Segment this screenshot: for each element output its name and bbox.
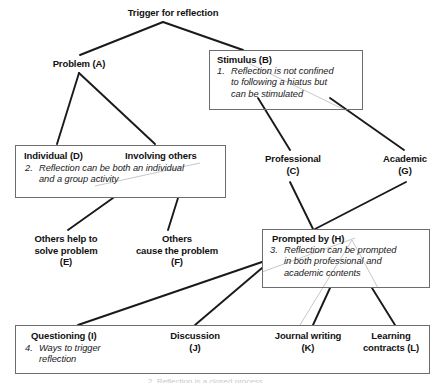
box-prompted-h-title: Prompted by (H) <box>272 233 344 245</box>
node-discussion-j: Discussion (J) <box>145 330 245 353</box>
box-individual-d-note-number: 2. <box>25 163 33 174</box>
edge-trigger-to-problem <box>80 22 163 55</box>
edge-trigger-to-stimulus <box>163 22 243 50</box>
edge-professional-to-prompted <box>290 182 313 229</box>
edge-prompted-to-learning <box>372 288 395 325</box>
box-prompted-h-note-number: 3. <box>270 245 278 256</box>
box-involving-others-title: Involving others <box>125 150 197 162</box>
box-stimulus-b-title: Stimulus (B) <box>217 54 272 66</box>
edge-problem-to-individual <box>57 73 79 144</box>
edge-involving-to-others-cause <box>168 198 178 230</box>
cut-off-caption: 2. Reflection is a closed process <box>148 377 263 383</box>
box-prompted-h-note-text: Reflection can be prompted in both profe… <box>284 245 429 279</box>
edge-prompted-to-journal <box>313 288 330 325</box>
box-methods-note-number: 4. <box>25 343 33 354</box>
edge-problem-to-involving <box>79 73 155 144</box>
diagram-canvas: Trigger for reflection Problem (A) Stimu… <box>0 0 442 385</box>
edge-prompted-to-questioning <box>78 262 262 325</box>
box-methods-note-text: Ways to trigger reflection <box>39 343 149 366</box>
box-individual-d-title: Individual (D) <box>24 150 83 162</box>
box-stimulus-b-note-number: 1. <box>217 66 225 77</box>
node-professional-c: Professional (C) <box>250 153 336 176</box>
node-learning-contracts-l: Learning contracts (L) <box>345 330 437 353</box>
box-individual-d-note-text: Reflection can be both an individual and… <box>39 163 224 186</box>
edge-prompted-to-discussion <box>195 268 262 325</box>
node-others-help-e: Others help to solve problem (E) <box>16 233 116 268</box>
box-stimulus-b-note-text: Reflection is not confined to following … <box>231 66 361 100</box>
edge-individual-to-others-help <box>68 198 113 230</box>
node-academic-g: Academic (G) <box>367 153 442 176</box>
page-title: Trigger for reflection <box>113 7 233 19</box>
edge-academic-to-prompted <box>315 182 406 229</box>
node-others-cause-f: Others cause the problem (F) <box>117 233 237 268</box>
node-questioning-i: Questioning (I) <box>31 330 97 342</box>
node-problem-a: Problem (A) <box>38 58 120 70</box>
